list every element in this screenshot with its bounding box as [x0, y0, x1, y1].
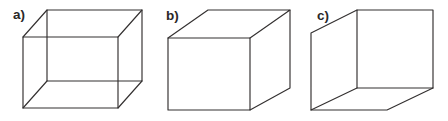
panel-label-c: c): [317, 8, 329, 23]
cube-a-connector-bottom-left: [23, 81, 47, 108]
cube-a-group: [23, 10, 142, 108]
panel-label-a: a): [13, 7, 25, 22]
panel-label-b: b): [166, 8, 179, 23]
cube-figure-svg: a) b) c): [0, 0, 448, 121]
cube-c-group: [311, 10, 433, 110]
cube-a-front-face-edges: [23, 37, 118, 108]
cube-figure-container: a) b) c): [0, 0, 448, 121]
cube-b-front-face: [168, 38, 250, 110]
cube-a-connector-top-left: [23, 10, 47, 37]
cube-a-back-face-edges: [47, 10, 142, 81]
cube-c-front-face: [357, 10, 433, 88]
cube-a-connector-bottom-right: [118, 81, 142, 108]
cube-b-group: [168, 10, 290, 110]
cube-a-connector-top-right: [118, 10, 142, 37]
